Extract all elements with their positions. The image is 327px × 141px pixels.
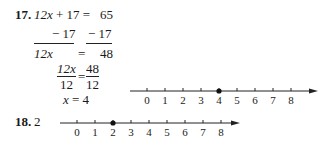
tick-label: 1 [162, 94, 168, 106]
tick-label: 6 [182, 126, 188, 138]
tick-label: 4 [146, 126, 152, 138]
tick-label: 0 [74, 126, 80, 138]
tick-label: 8 [288, 94, 294, 106]
solution-point [216, 88, 221, 93]
tick-label: 0 [144, 94, 150, 106]
tick-label: 7 [270, 94, 276, 106]
tick-label: 6 [252, 94, 258, 106]
tick-label: 5 [164, 126, 170, 138]
solution-point [110, 120, 115, 125]
tick-label: 3 [128, 126, 134, 138]
tick-label: 5 [234, 94, 240, 106]
number-line-17: 012345678 [130, 88, 318, 106]
tick-label: 2 [110, 126, 116, 138]
arrow-head [309, 89, 318, 94]
tick-label: 4 [216, 94, 222, 106]
number-lines: 012345678 012345678 [0, 0, 327, 141]
tick-label: 8 [218, 126, 224, 138]
tick-label: 3 [198, 94, 204, 106]
number-line-18: 012345678 [60, 120, 240, 138]
tick-label: 7 [200, 126, 206, 138]
tick-label: 2 [180, 94, 186, 106]
arrow-head [231, 121, 240, 126]
tick-label: 1 [92, 126, 98, 138]
